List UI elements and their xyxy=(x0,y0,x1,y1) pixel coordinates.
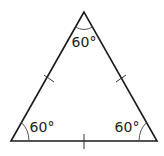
equilateral-triangle-diagram: 60° 60° 60° xyxy=(0,0,164,156)
bottom-right-angle-arc xyxy=(139,123,147,142)
top-angle-label: 60° xyxy=(72,34,97,50)
bottom-left-angle-arc xyxy=(22,123,30,142)
bottom-right-angle-label: 60° xyxy=(115,119,140,135)
bottom-left-angle-label: 60° xyxy=(30,119,55,135)
top-angle-arc xyxy=(76,27,93,30)
